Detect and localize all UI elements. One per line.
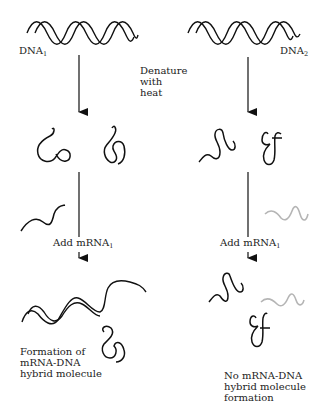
right-mrna1-strand-icon (265, 207, 308, 220)
left-mrna1-strand-icon (21, 205, 65, 231)
right-add-mrna1-label: Add mRNA1 (219, 237, 281, 252)
dna1-label: DNA1 (19, 45, 47, 60)
dna2-label-text: DNA (280, 45, 304, 56)
denature-with-heat-label: Denature with heat (140, 65, 188, 98)
right-result-line: No mRNA-DNA (224, 370, 306, 381)
left-add-mrna-text: Add mRNA (53, 237, 109, 248)
left-result-line: hybrid molecule (20, 368, 102, 379)
right-result-caption: No mRNA-DNA hybrid molecule formation (224, 370, 306, 403)
right-mrna1-unbound-icon (261, 294, 304, 306)
dna1-double-helix-icon (27, 22, 138, 45)
left-result-caption: Formation of mRNA-DNA hybrid molecule (20, 346, 102, 379)
left-single-strand-dna-icons (38, 126, 125, 164)
left-add-mrna1-label: Add mRNA1 (52, 237, 114, 252)
left-leftover-dna-strand-icon (102, 326, 124, 362)
dna2-label-subscript: 2 (304, 50, 308, 58)
dna2-double-helix-icon (188, 22, 300, 45)
dna2-label: DNA2 (280, 45, 308, 60)
right-leftover-dna-strand-b-icon (250, 313, 270, 346)
right-single-strand-dna-icons (199, 129, 282, 164)
dna1-label-text: DNA (19, 45, 43, 56)
left-result-line: mRNA-DNA (20, 357, 102, 368)
right-add-mrna-subscript: 1 (276, 242, 280, 250)
left-result-line: Formation of (20, 346, 102, 357)
denature-label-line: Denature (140, 65, 188, 76)
denature-label-line: heat (140, 87, 188, 98)
diagram-canvas: DNA1 DNA2 Denature with heat Add mRNA1 A… (0, 0, 321, 418)
mrna-dna-hybrid-molecule-icon (22, 281, 146, 324)
dna1-label-subscript: 1 (43, 50, 47, 58)
right-add-mrna-text: Add mRNA (220, 237, 276, 248)
denature-label-line: with (140, 76, 188, 87)
right-result-line: hybrid molecule (224, 381, 306, 392)
left-add-mrna-subscript: 1 (109, 242, 113, 250)
right-result-line: formation (224, 392, 306, 403)
right-leftover-dna-strand-a-icon (209, 273, 243, 302)
